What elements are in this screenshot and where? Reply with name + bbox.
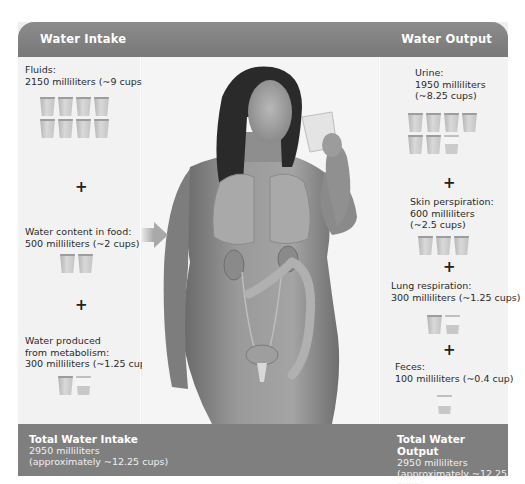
urine-label-cups: (~8.25 cups) [415,90,486,102]
skin-label-amount: 600 milliliters [410,208,494,220]
feces-label: Feces: 100 milliliters (~0.4 cup) [395,361,513,384]
skin-label-title: Skin perspiration: [410,196,494,208]
plus-icon: + [443,343,456,357]
partial-cup-icon [444,135,459,154]
cup-icon [76,97,91,116]
cup-icon [76,119,91,138]
cup-icon [40,119,55,138]
cup-icon [58,97,73,116]
feces-label-title: Feces: [395,361,513,373]
partial-cup-icon [437,395,452,414]
urine-cups [408,113,488,154]
cup-icon [444,113,459,132]
fluids-cups [40,97,115,138]
total-output: Total Water Output 2950 milliliters (app… [397,433,508,484]
food-label-amount: 500 milliliters (~2 cups) [25,238,139,250]
food-label: Water content in food: 500 milliliters (… [25,226,139,249]
fluids-label: Fluids: 2150 milliliters (~9 cups) [25,64,145,87]
total-output-title: Total Water Output [397,433,508,457]
lung-respiration-label: Lung respiration: 300 milliliters (~1.25… [391,280,520,303]
total-output-ml: 2950 milliliters [397,457,508,468]
header-bar: Water Intake Water Output [18,22,508,57]
cup-icon [60,254,75,273]
cup-icon [40,97,55,116]
lung-label-amount: 300 milliliters (~1.25 cups) [391,292,520,304]
total-intake-title: Total Water Intake [29,433,168,445]
metabolism-label-title-2: from metabolism: [25,347,154,359]
metabolism-label-title: Water produced [25,335,154,347]
plus-icon: + [443,260,456,274]
plus-icon: + [75,180,88,194]
cup-icon [408,135,423,154]
cup-icon [78,254,93,273]
food-cups [60,254,93,273]
water-intake-title: Water Intake [40,32,126,46]
cup-icon [426,113,441,132]
total-intake: Total Water Intake 2950 milliliters (app… [29,433,168,467]
skin-perspiration-label: Skin perspiration: 600 milliliters (~2.5… [410,196,494,231]
fluids-label-title: Fluids: [25,64,145,76]
urine-label-amount: 1950 milliliters [415,79,486,91]
cup-icon [58,376,73,395]
total-intake-cups: (approximately ~12.25 cups) [29,456,168,467]
feces-label-amount: 100 milliliters (~0.4 cup) [395,373,513,385]
cup-icon [426,135,441,154]
cup-icon [454,236,469,255]
cup-icon [58,119,73,138]
human-anatomy-figure-icon [142,57,378,424]
skin-label-cups: (~2.5 cups) [410,219,494,231]
partial-cup-icon [76,376,91,395]
skin-cups [418,236,469,255]
urine-label-title: Urine: [415,67,486,79]
food-label-title: Water content in food: [25,226,139,238]
cup-icon [94,119,109,138]
lung-label-title: Lung respiration: [391,280,520,292]
urine-label: Urine: 1950 milliliters (~8.25 cups) [415,67,486,102]
cup-icon [436,236,451,255]
water-output-title: Water Output [401,32,492,46]
partial-cup-icon [445,315,460,334]
plus-icon: + [443,176,456,190]
total-intake-ml: 2950 milliliters [29,445,168,456]
cup-icon [427,315,442,334]
fluids-label-amount: 2150 milliliters (~9 cups) [25,76,145,88]
metabolism-cups [58,376,91,395]
lung-cups [427,315,460,334]
plus-icon: + [75,298,88,312]
cup-icon [462,113,477,132]
totals-footer: Total Water Intake 2950 milliliters (app… [18,424,508,476]
metabolism-label-amount: 300 milliliters (~1.25 cups) [25,358,154,370]
anatomy-illustration [142,57,378,424]
cup-icon [408,113,423,132]
cup-icon [418,236,433,255]
cup-icon [94,97,109,116]
metabolism-label: Water produced from metabolism: 300 mill… [25,335,154,370]
total-output-cups: (approximately ~12.25 cups) [397,468,508,484]
feces-cups [437,395,452,414]
